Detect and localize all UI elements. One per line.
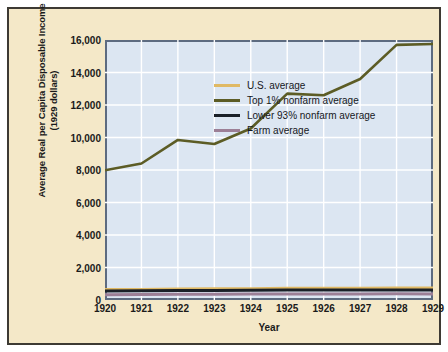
legend-color-swatch xyxy=(214,84,240,87)
data-series-line xyxy=(105,290,433,291)
data-series-line xyxy=(105,294,433,295)
legend-item-label: Top 1% nonfarm average xyxy=(247,95,359,106)
y-axis-tick-label: 2,000 xyxy=(55,262,101,273)
x-axis-title: Year xyxy=(105,322,433,333)
y-axis-tick-labels: 02,0004,0006,0008,00010,00012,00014,0001… xyxy=(53,40,101,300)
legend-color-swatch xyxy=(214,114,240,117)
x-axis-tick-label: 1929 xyxy=(411,303,448,314)
y-axis-tick-label: 14,000 xyxy=(55,67,101,78)
legend-item: Top 1% nonfarm average xyxy=(214,93,424,108)
legend-item: Farm average xyxy=(214,123,424,138)
legend-item-label: Lower 93% nonfarm average xyxy=(247,110,375,121)
y-axis-tick-label: 8,000 xyxy=(55,165,101,176)
legend-color-swatch xyxy=(214,129,240,132)
legend-color-swatch xyxy=(214,99,240,102)
y-axis-tick-label: 10,000 xyxy=(55,132,101,143)
chart-figure: Average Real per Capita Disposable Incom… xyxy=(0,0,448,352)
y-axis-tick-label: 12,000 xyxy=(55,100,101,111)
legend-item-label: Farm average xyxy=(247,125,309,136)
legend-item: Lower 93% nonfarm average xyxy=(214,108,424,123)
figure-panel: Average Real per Capita Disposable Incom… xyxy=(7,7,441,345)
plot-region: U.S. averageTop 1% nonfarm averageLower … xyxy=(105,40,433,300)
chart-legend: U.S. averageTop 1% nonfarm averageLower … xyxy=(214,78,424,138)
y-axis-title-line1: Average Real per Capita Disposable Incom… xyxy=(36,3,47,197)
y-axis-tick-label: 4,000 xyxy=(55,230,101,241)
y-axis-tick-label: 16,000 xyxy=(55,35,101,46)
y-axis-tick-label: 6,000 xyxy=(55,197,101,208)
x-axis-tick-labels: 1920192119221923192419251926192719281929 xyxy=(105,303,433,319)
legend-item: U.S. average xyxy=(214,78,424,93)
legend-item-label: U.S. average xyxy=(247,80,305,91)
